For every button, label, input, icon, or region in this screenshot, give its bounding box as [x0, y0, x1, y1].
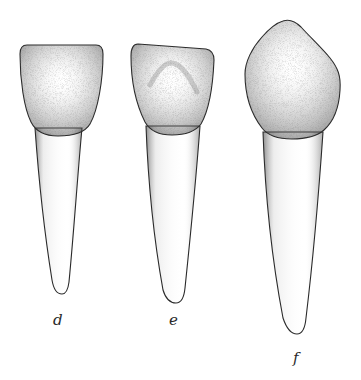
tooth-d	[20, 45, 103, 294]
tooth-e	[131, 44, 214, 303]
tooth-e-root	[146, 126, 200, 303]
tooth-f-root	[263, 132, 323, 334]
tooth-f	[245, 20, 340, 334]
tooth-e-label: e	[169, 313, 178, 328]
tooth-d-label: d	[53, 313, 63, 328]
tooth-f-label: f	[293, 351, 299, 366]
tooth-d-root	[35, 128, 82, 294]
